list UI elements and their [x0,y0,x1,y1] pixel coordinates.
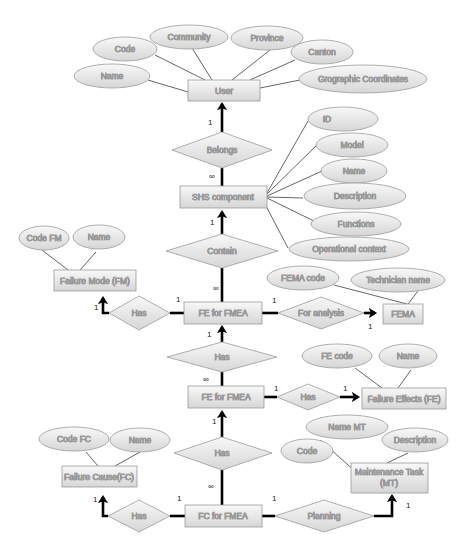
svg-text:Grographic Coordinates: Grographic Coordinates [318,74,408,84]
svg-text:Name: Name [397,351,420,361]
svg-text:∞: ∞ [209,172,215,181]
svg-text:Name: Name [101,71,124,81]
svg-text:Has: Has [131,308,146,318]
rel-contain: Contain [166,234,278,268]
svg-text:∞: ∞ [208,482,214,491]
rel-planning: Planning [275,500,374,532]
svg-text:Name: Name [343,166,366,176]
svg-text:Has: Has [214,352,229,362]
attr-shs-id: ID [308,107,378,131]
svg-text:1: 1 [368,322,373,331]
svg-text:Community: Community [168,32,212,42]
svg-text:1: 1 [272,494,277,503]
attr-fc-name: Name [110,428,170,452]
attr-shs-functions: Functions [311,212,401,236]
svg-text:Has: Has [300,392,315,402]
svg-text:User: User [215,86,233,96]
entity-maintenance-task: Maintenance Task(MT) [351,463,428,493]
attr-user-province: Province [231,26,303,50]
svg-text:FE for FMEA: FE for FMEA [201,392,250,402]
svg-text:Failure Effects (FE): Failure Effects (FE) [367,394,440,404]
svg-text:1: 1 [343,384,348,393]
svg-text:Contain: Contain [207,246,237,256]
svg-text:Name MT: Name MT [328,422,365,432]
svg-text:1: 1 [210,218,215,227]
attr-user-community: Community [150,25,228,49]
attr-fe-code: FE code [302,344,372,368]
attr-mt-name: Name MT [306,415,388,439]
svg-text:FE for FMEA: FE for FMEA [198,308,247,318]
entity-failure-mode: Failure Mode (FM) [54,270,136,291]
svg-text:FE code: FE code [321,351,353,361]
attr-fc-code: Code FC [39,427,109,451]
er-diagram: Code Community Province Canton Name Grog… [0,0,468,543]
svg-text:1: 1 [272,296,277,305]
svg-text:1: 1 [274,384,279,393]
svg-text:FC for FMEA: FC for FMEA [198,511,248,521]
svg-text:1: 1 [207,330,212,339]
attr-user-name: Name [74,64,150,88]
svg-text:Failure Mode (FM): Failure Mode (FM) [60,276,130,286]
svg-text:1: 1 [93,495,98,504]
svg-text:Technician name: Technician name [366,275,430,285]
entity-shs-component: SHS component [180,186,267,208]
svg-text:1: 1 [176,295,181,304]
attr-shs-model: Model [316,133,388,157]
svg-text:Maintenance Task: Maintenance Task [355,467,424,477]
entity-fema: FEMA [383,304,423,324]
rel-has-fc-mid: Has [174,437,272,470]
svg-text:Belongs: Belongs [207,145,238,155]
svg-text:1: 1 [406,501,411,510]
rel-has-fm: Has [109,296,170,330]
attr-fe-name: Name [379,344,437,368]
svg-text:Province: Province [250,33,283,43]
entity-failure-effects: Failure Effects (FE) [362,388,446,409]
svg-text:Code: Code [115,44,136,54]
attr-mt-code: Code [281,439,333,463]
svg-text:Name: Name [88,232,111,242]
svg-text:1: 1 [212,417,217,426]
svg-text:Description: Description [334,191,377,201]
svg-text:1: 1 [94,303,99,312]
svg-text:Functions: Functions [338,219,375,229]
svg-text:Description: Description [394,435,437,445]
svg-text:ID: ID [323,114,332,124]
rel-has-fe: Has [277,384,340,410]
entity-fe-for-fmea-2: FE for FMEA [188,386,264,408]
rel-belongs: Belongs [172,132,272,168]
svg-text:SHS component: SHS component [192,192,255,202]
attr-mt-description: Description [382,428,448,452]
attr-fema-code: FEMA code [267,266,339,290]
svg-text:Code: Code [297,446,318,456]
svg-text:∞: ∞ [213,284,219,293]
attr-fema-technician: Technician name [351,268,445,292]
svg-text:Has: Has [131,511,146,521]
svg-text:1: 1 [208,118,213,127]
attr-fm-code: Code FM [19,226,69,250]
svg-text:1: 1 [177,494,182,503]
svg-text:Code FC: Code FC [57,434,91,444]
attr-user-code: Code [93,37,157,61]
rel-for-analysis: For analysis [278,297,364,329]
svg-text:FEMA code: FEMA code [281,273,325,283]
rel-has-fc: Has [108,500,170,532]
attr-shs-description: Description [304,183,406,209]
svg-text:FEMA: FEMA [391,309,415,319]
svg-text:(MT): (MT) [380,478,398,488]
svg-text:Model: Model [340,140,363,150]
attr-user-canton: Canton [291,40,353,64]
svg-text:Failure Cause(FC): Failure Cause(FC) [64,472,134,482]
rel-has-fe-mid: Has [167,342,277,372]
svg-text:Canton: Canton [308,47,336,57]
svg-text:Operational context: Operational context [312,244,386,254]
svg-text:Name: Name [129,435,152,445]
entity-fe-for-fmea-1: FE for FMEA [184,302,262,324]
svg-text:For analysis: For analysis [298,308,344,318]
entity-fc-for-fmea: FC for FMEA [185,505,262,527]
svg-text:∞: ∞ [203,375,209,384]
entity-failure-cause: Failure Cause(FC) [62,466,137,487]
attr-fm-name: Name [73,225,125,249]
svg-text:Has: Has [214,448,229,458]
svg-text:Code FM: Code FM [27,233,62,243]
attr-shs-operational-context: Operational context [289,237,409,261]
